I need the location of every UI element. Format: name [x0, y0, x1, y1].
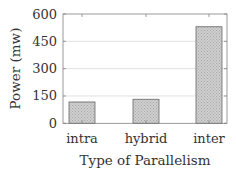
bar-chart: 0150300450600 intrahybridinter Power (mw…: [0, 0, 236, 179]
bar-hybrid: [133, 99, 159, 123]
x-axis-label: Type of Parallelism: [80, 152, 211, 168]
y-tick-label: 300: [32, 61, 57, 76]
x-tick-label: intra: [66, 131, 98, 146]
y-tick-label: 0: [49, 116, 57, 131]
x-tick-label: hybrid: [125, 131, 168, 146]
x-tick-label: inter: [193, 131, 225, 146]
bar-inter: [196, 27, 222, 124]
y-tick-label: 600: [32, 7, 57, 22]
y-tick-label: 150: [32, 88, 57, 103]
y-axis-label: Power (mw): [7, 28, 23, 110]
bar-intra: [69, 102, 95, 123]
y-tick-label: 450: [32, 34, 57, 49]
